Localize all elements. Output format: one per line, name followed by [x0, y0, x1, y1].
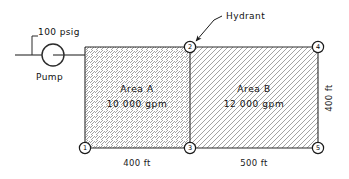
- node-2[interactable]: 2: [184, 41, 195, 52]
- node-1[interactable]: 1: [79, 142, 90, 153]
- area-b-name: Area B: [237, 84, 270, 94]
- arrow-leader-icon: [196, 16, 222, 41]
- pump-label: Pump: [36, 72, 63, 82]
- dimension-bottom-left: 400 ft: [123, 158, 151, 168]
- node-4-label: 4: [316, 43, 320, 51]
- node-5-label: 5: [316, 144, 320, 152]
- area-a-name: Area A: [120, 84, 154, 94]
- node-4[interactable]: 4: [312, 41, 323, 52]
- area-a-flow: 10 000 gpm: [107, 99, 168, 109]
- area-a-fill: [85, 47, 190, 148]
- node-5[interactable]: 5: [312, 142, 323, 153]
- hydrant-label: Hydrant: [226, 11, 265, 21]
- area-b-flow: 12 000 gpm: [224, 99, 285, 109]
- hydrant-callout: [196, 16, 222, 41]
- node-1-label: 1: [83, 144, 87, 152]
- node-3[interactable]: 3: [184, 142, 195, 153]
- dimension-right-side: 400 ft: [324, 84, 334, 112]
- node-3-label: 3: [188, 144, 192, 152]
- pump-assembly[interactable]: [15, 36, 85, 66]
- diagram-canvas: 100 psig Pump Hydrant Area A 10 000 gpm …: [0, 0, 349, 179]
- area-b-fill: [190, 47, 318, 148]
- dimension-bottom-right: 500 ft: [240, 158, 268, 168]
- pump-pressure-label: 100 psig: [38, 27, 80, 37]
- node-2-label: 2: [188, 43, 192, 51]
